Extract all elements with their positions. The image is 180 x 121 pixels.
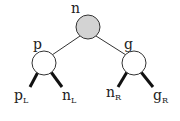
subtree-pL-label: pL — [14, 87, 29, 105]
node-n — [76, 15, 100, 39]
node-p-label: p — [33, 36, 42, 52]
node-p — [32, 51, 56, 75]
subtree-gR-label: gR — [153, 87, 169, 105]
edge-g-gR — [141, 72, 153, 87]
node-g-label: g — [124, 36, 133, 52]
subtree-nL-label: nL — [62, 87, 77, 105]
edge-n-g — [96, 36, 126, 55]
node-n-label: n — [71, 0, 80, 16]
edge-n-p — [52, 36, 80, 55]
node-g — [122, 51, 146, 75]
edge-p-pL — [30, 72, 38, 87]
edge-g-nR — [118, 72, 127, 87]
tree-diagram: n p g pL nL nR gR — [0, 0, 180, 121]
edge-p-nL — [51, 72, 62, 87]
